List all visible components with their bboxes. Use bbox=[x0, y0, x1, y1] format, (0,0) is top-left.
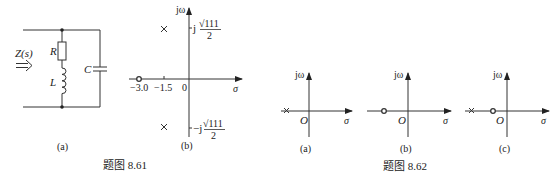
inductor-label: L bbox=[49, 76, 56, 88]
circuit-diagram bbox=[16, 30, 107, 107]
zero-marker-icon bbox=[382, 109, 387, 114]
panel-label: (a) bbox=[57, 141, 68, 153]
pole-label-prefix: j bbox=[192, 22, 196, 34]
panel-label: (b) bbox=[400, 143, 412, 155]
diagram-canvas: Z(s) R L C (a) jω σ −3.0 −1.5 0 j √111 2… bbox=[0, 0, 559, 177]
resistor-label: R bbox=[49, 45, 57, 57]
sigma-axis-label: σ bbox=[541, 115, 547, 126]
tick-label: −1.5 bbox=[154, 82, 172, 93]
arrow-head-icon bbox=[26, 60, 32, 71]
node-dot bbox=[60, 28, 64, 32]
pole-marker-icon bbox=[161, 26, 167, 32]
zero-marker-icon bbox=[137, 77, 142, 82]
pole-zero-plot-a bbox=[281, 73, 352, 137]
pole-label-prefix: −j bbox=[193, 122, 202, 134]
pole-zero-plot bbox=[129, 8, 242, 137]
figure-caption: 题图 8.61 bbox=[103, 159, 147, 171]
origin-label: O bbox=[398, 114, 406, 126]
panel-label: (c) bbox=[499, 143, 510, 155]
impedance-label: Z(s) bbox=[15, 47, 33, 60]
pole-zero-plot-b bbox=[367, 73, 451, 137]
panel-label: (b) bbox=[181, 140, 193, 152]
pole-zero-plot-c bbox=[465, 73, 549, 137]
inductor bbox=[62, 68, 66, 94]
sigma-axis-label: σ bbox=[443, 115, 449, 126]
sigma-axis-label: σ bbox=[344, 115, 350, 126]
origin-label: O bbox=[496, 114, 504, 126]
pole-label-denominator: 2 bbox=[207, 30, 212, 41]
zero-marker-icon bbox=[491, 109, 496, 114]
sigma-axis-label: σ bbox=[233, 83, 239, 94]
pole-marker-icon bbox=[161, 124, 167, 130]
capacitor-label: C bbox=[84, 63, 92, 75]
pole-label-denominator: 2 bbox=[211, 130, 216, 141]
jw-axis-label: jω bbox=[393, 69, 404, 80]
jw-axis-label: jω bbox=[294, 69, 305, 80]
tick-label: −3.0 bbox=[130, 82, 148, 93]
panel-label: (a) bbox=[300, 143, 311, 155]
pole-label-numerator: √111 bbox=[199, 18, 219, 29]
pole-label-numerator: √111 bbox=[203, 118, 223, 129]
jw-axis-label: jω bbox=[492, 69, 503, 80]
tick-label: 0 bbox=[182, 82, 187, 93]
resistor bbox=[58, 42, 66, 60]
jw-axis-label: jω bbox=[175, 4, 186, 15]
origin-label: O bbox=[300, 114, 308, 126]
node-dot bbox=[60, 105, 64, 109]
figure-caption: 题图 8.62 bbox=[383, 160, 427, 172]
